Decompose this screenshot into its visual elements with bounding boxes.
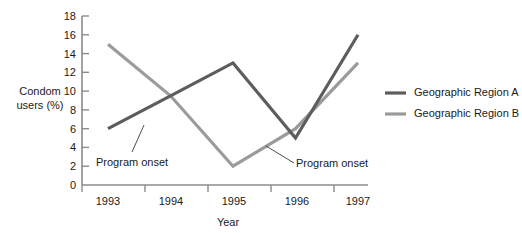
y-tick-label-16: 16 bbox=[64, 29, 76, 41]
legend-item-region-a[interactable]: Geographic Region A bbox=[385, 86, 519, 98]
legend: Geographic Region A Geographic Region B bbox=[385, 86, 519, 119]
y-axis-title: Condom users (%) bbox=[16, 85, 63, 111]
y-tick-label-10: 10 bbox=[64, 85, 76, 97]
x-tick-label-1995: 1995 bbox=[222, 195, 246, 207]
x-tick-label-1994: 1994 bbox=[159, 195, 183, 207]
x-tick-labels: 1993 1994 1995 1996 1997 bbox=[96, 195, 370, 207]
chart-canvas: 18 16 14 12 10 8 6 4 2 0 Condom users (%… bbox=[0, 0, 522, 233]
series-line-region-a bbox=[108, 35, 358, 138]
x-axis-title: Year bbox=[217, 216, 240, 228]
annotation-label-program-onset-a: Program onset bbox=[96, 156, 168, 168]
leader-line-a bbox=[132, 125, 144, 152]
legend-label-region-a: Geographic Region A bbox=[414, 86, 519, 98]
y-tick-label-8: 8 bbox=[70, 104, 76, 116]
annotation-program-onset-a: Program onset bbox=[96, 125, 168, 168]
y-axis-title-line1: Condom bbox=[19, 85, 61, 97]
y-tick-label-0: 0 bbox=[70, 179, 76, 191]
x-tick-label-1993: 1993 bbox=[96, 195, 120, 207]
legend-item-region-b[interactable]: Geographic Region B bbox=[385, 107, 519, 119]
y-tick-label-18: 18 bbox=[64, 10, 76, 22]
x-tick-marks bbox=[82, 185, 334, 192]
y-tick-label-2: 2 bbox=[70, 160, 76, 172]
x-tick-label-1996: 1996 bbox=[285, 195, 309, 207]
y-tick-label-14: 14 bbox=[64, 48, 76, 60]
annotation-program-onset-b: Program onset bbox=[266, 146, 368, 169]
y-tick-label-12: 12 bbox=[64, 66, 76, 78]
legend-label-region-b: Geographic Region B bbox=[414, 107, 519, 119]
leader-line-b bbox=[266, 146, 294, 163]
y-axis-title-line2: users (%) bbox=[16, 99, 63, 111]
y-tick-label-4: 4 bbox=[70, 141, 76, 153]
y-tick-label-6: 6 bbox=[70, 123, 76, 135]
y-tick-labels: 18 16 14 12 10 8 6 4 2 0 bbox=[64, 10, 76, 191]
y-tick-marks bbox=[82, 16, 89, 166]
x-tick-label-1997: 1997 bbox=[346, 195, 370, 207]
line-chart-figure: 18 16 14 12 10 8 6 4 2 0 Condom users (%… bbox=[0, 0, 522, 233]
annotation-label-program-onset-b: Program onset bbox=[296, 157, 368, 169]
